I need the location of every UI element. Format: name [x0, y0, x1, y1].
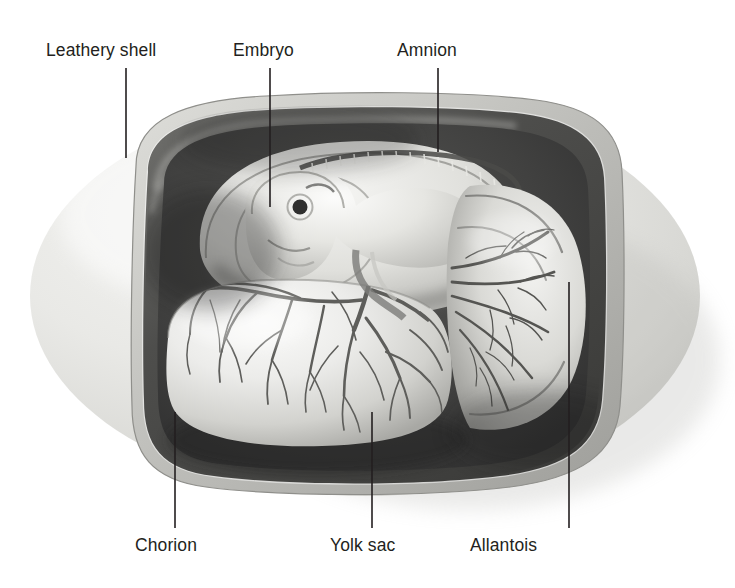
embryo-eye — [293, 200, 308, 215]
label-yolk-sac: Yolk sac — [330, 535, 395, 556]
label-chorion: Chorion — [135, 535, 197, 556]
label-leathery-shell: Leathery shell — [46, 40, 156, 61]
label-embryo: Embryo — [233, 40, 294, 61]
label-amnion: Amnion — [397, 40, 457, 61]
amniotic-egg-figure — [0, 0, 735, 588]
label-allantois: Allantois — [470, 535, 537, 556]
